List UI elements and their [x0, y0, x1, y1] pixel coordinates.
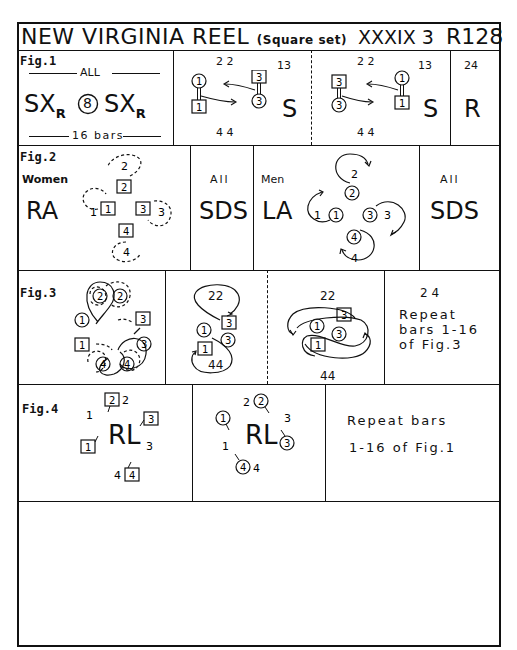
fig4-label: Fig.4	[22, 402, 58, 416]
svg-text:1: 1	[315, 340, 321, 351]
svg-text:2: 2	[117, 291, 123, 302]
fig3-interlacing-diagram: 2 2 1 3 1 3 4 4	[70, 274, 160, 382]
svg-text:2: 2	[349, 188, 355, 199]
fig1-a-diagram: 1 1 3 3	[185, 70, 280, 130]
fig1-a-top-nums: 2 2	[216, 55, 234, 68]
fig3-repeat-line1: Repeat	[399, 307, 457, 322]
svg-text:1: 1	[333, 210, 339, 221]
fig4-action-1: RL	[108, 420, 141, 450]
fig3-label: Fig.3	[20, 286, 56, 300]
fig1-b-action: S	[423, 95, 438, 123]
svg-text:3: 3	[336, 100, 342, 111]
svg-text:1: 1	[105, 204, 111, 215]
svg-text:4: 4	[123, 226, 129, 237]
svg-text:3: 3	[341, 310, 347, 321]
men-left-hands-across-diagram: 2 1 3 4 2 1 3 4	[300, 150, 418, 268]
bars-rule-right	[123, 136, 161, 137]
svg-text:1: 1	[399, 73, 405, 84]
sds-action-1: SDS	[199, 197, 248, 225]
svg-text:3: 3	[256, 96, 262, 107]
svg-text:3: 3	[146, 440, 153, 453]
svg-text:2: 2	[258, 396, 264, 407]
svg-text:3: 3	[367, 210, 373, 221]
svg-text:3: 3	[336, 77, 342, 88]
women-action: RA	[26, 197, 58, 225]
fig1-b-diagram: 3 3 1 1	[328, 70, 423, 130]
svg-text:1: 1	[202, 344, 208, 355]
fig4-divider-1	[192, 384, 193, 501]
svg-text:4: 4	[253, 462, 260, 475]
svg-text:4: 4	[114, 469, 121, 482]
women-label: Women	[22, 173, 68, 186]
fig3-c-diagram: 3 1 3 1	[285, 300, 381, 370]
fig1-label: Fig.1	[20, 54, 56, 68]
header-divider	[17, 50, 501, 51]
men-label: Men	[261, 173, 284, 186]
fig3-divider-1	[165, 270, 166, 384]
fig1-formation-left: SXR	[24, 90, 66, 121]
fig2-divider-2	[253, 145, 254, 270]
svg-text:1: 1	[196, 76, 202, 87]
all-rule-right	[112, 73, 160, 74]
all-label-1: All	[210, 173, 230, 186]
svg-text:1: 1	[314, 321, 320, 332]
fig4-divider-2	[325, 384, 326, 501]
svg-text:1: 1	[196, 102, 202, 113]
book-reference: XXXIX 3	[358, 26, 434, 48]
svg-text:1: 1	[79, 315, 85, 326]
svg-text:3: 3	[140, 204, 146, 215]
fig1-all-label: ALL	[80, 66, 100, 79]
svg-text:1: 1	[201, 325, 207, 336]
set-type: (Square set)	[257, 33, 347, 47]
fig2-label: Fig.2	[20, 150, 56, 164]
svg-text:4: 4	[240, 462, 246, 473]
svg-text:4: 4	[100, 359, 106, 370]
row-divider-4	[17, 501, 501, 502]
women-right-hands-across-diagram: 2 1 3 4 2 1 3 4	[70, 150, 185, 268]
svg-text:4: 4	[129, 470, 135, 481]
fig3-divider-dashed	[267, 270, 268, 384]
svg-text:4: 4	[351, 252, 358, 265]
fig3-b-diagram: 3 1 3 1	[180, 280, 266, 380]
dance-code: R128	[446, 24, 503, 49]
fig4-action-2: RL	[245, 420, 278, 450]
svg-text:3: 3	[148, 414, 154, 425]
svg-text:2: 2	[121, 182, 127, 193]
fig3-repeat-line2: bars 1-16	[399, 322, 479, 337]
svg-text:1: 1	[79, 340, 85, 351]
dance-title: NEW VIRGINIA REEL (Square set)	[21, 24, 347, 49]
svg-text:3: 3	[284, 438, 290, 449]
bars-rule-left	[29, 136, 69, 137]
title-text: NEW VIRGINIA REEL	[21, 24, 249, 49]
svg-text:1: 1	[90, 206, 97, 219]
fig1-bars-label: 16 bars	[72, 129, 124, 142]
fig2-divider-3	[419, 145, 420, 270]
fig1-c-top-nums: 24	[464, 59, 478, 72]
all-rule-left	[29, 73, 77, 74]
svg-text:3: 3	[256, 72, 262, 83]
fig3-divider-2	[384, 270, 385, 384]
fig1-bars-circle-number: 8	[83, 95, 92, 111]
svg-text:2: 2	[121, 160, 128, 173]
svg-text:2: 2	[109, 395, 115, 406]
svg-text:3: 3	[141, 339, 147, 350]
svg-text:3: 3	[284, 412, 291, 425]
svg-text:1: 1	[399, 98, 405, 109]
fig1-c-action: R	[464, 95, 481, 123]
fig1-b-top-nums: 2 2	[357, 55, 375, 68]
svg-text:4: 4	[123, 246, 130, 259]
svg-text:3: 3	[336, 329, 342, 340]
fig1-divider-2	[450, 50, 451, 145]
men-action: LA	[262, 197, 292, 225]
svg-text:1: 1	[314, 209, 321, 222]
sds-action-2: SDS	[430, 197, 479, 225]
svg-text:2: 2	[243, 396, 250, 409]
fig1-a-action: S	[282, 95, 297, 123]
svg-text:3: 3	[158, 206, 165, 219]
fig1-divider-dashed	[311, 50, 312, 145]
fig2-divider-1	[190, 145, 191, 270]
fig4-repeat-line2: 1-16 of Fig.1	[349, 440, 456, 455]
svg-text:3: 3	[226, 318, 232, 329]
fig1-formation-right: SXR	[104, 90, 146, 121]
row-divider-1	[17, 145, 501, 146]
